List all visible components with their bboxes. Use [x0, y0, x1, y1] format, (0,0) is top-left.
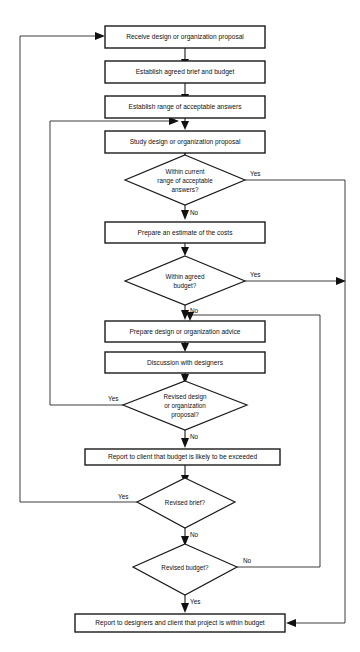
node-within-range-decision[interactable]: Within current range of acceptable answe…	[125, 155, 245, 205]
node-revised-design-line1: Revised design	[163, 393, 207, 401]
node-revised-brief-decision[interactable]: Revised brief?	[137, 478, 235, 528]
edge-label-revised-brief-no: No	[190, 531, 199, 538]
node-within-range-line3: answers?	[172, 186, 199, 193]
node-within-range-line2: range of acceptable	[157, 177, 213, 185]
node-study-proposal-label: Study design or organization proposal	[130, 138, 241, 146]
node-establish-brief[interactable]: Establish agreed brief and budget	[105, 61, 265, 83]
node-prepare-estimate[interactable]: Prepare an estimate of the costs	[105, 222, 265, 243]
edge-label-revised-budget-yes: Yes	[190, 598, 200, 605]
node-revised-brief-line1: Revised brief?	[165, 499, 206, 506]
arrow-revisedbudget-yes	[181, 603, 189, 613]
node-report-within-budget-label: Report to designers and client that proj…	[95, 619, 265, 627]
arrow-withinbudget-yes-join	[336, 277, 346, 285]
arrow-outer-right-to-report	[286, 619, 296, 627]
node-revised-budget-decision[interactable]: Revised budget?	[133, 544, 237, 595]
edge-label-within-budget-yes: Yes	[250, 271, 260, 278]
edge-label-within-range-no: No	[190, 209, 199, 216]
arrow-range-to-study	[181, 121, 189, 130]
node-establish-range[interactable]: Establish range of acceptable answers	[105, 96, 265, 118]
node-revised-design-decision[interactable]: Revised design or organization proposal?	[123, 381, 247, 430]
arrow-reviseddesign-no	[181, 438, 189, 448]
edge-label-revised-design-no: No	[190, 433, 199, 440]
node-revised-budget-line1: Revised budget?	[161, 564, 209, 572]
node-within-budget-diamond	[125, 256, 245, 305]
node-establish-brief-label: Establish agreed brief and budget	[136, 68, 235, 76]
edge-label-revised-design-yes: Yes	[108, 395, 118, 402]
node-prepare-advice[interactable]: Prepare design or organization advice	[105, 321, 265, 342]
arrow-withinrange-no	[181, 210, 189, 220]
arrow-advice-to-discussion	[181, 343, 189, 352]
edge-label-within-budget-no: No	[190, 307, 199, 314]
node-discussion[interactable]: Discussion with designers	[105, 352, 265, 373]
arrow-estimate-to-withinbudget	[181, 247, 189, 256]
node-within-budget-line2: budget?	[174, 282, 197, 290]
node-report-within-budget[interactable]: Report to designers and client that proj…	[75, 614, 285, 632]
node-prepare-advice-label: Prepare design or organization advice	[129, 328, 240, 336]
node-within-budget-line1: Within agreed	[166, 273, 205, 281]
edge-withinrange-yes-loop	[245, 180, 345, 623]
node-report-exceeded-label: Report to client that budget is likely t…	[108, 453, 258, 461]
node-study-proposal[interactable]: Study design or organization proposal	[105, 131, 265, 153]
node-revised-design-line3: proposal?	[171, 411, 199, 419]
flowchart-canvas: Receive design or organization proposal …	[0, 0, 360, 652]
node-report-exceeded[interactable]: Report to client that budget is likely t…	[85, 449, 280, 465]
node-within-budget-decision[interactable]: Within agreed budget?	[125, 256, 245, 305]
arrow-loop-to-receive	[95, 32, 105, 40]
node-receive-proposal[interactable]: Receive design or organization proposal	[105, 26, 265, 48]
edge-label-within-range-yes: Yes	[250, 170, 260, 177]
flowchart-svg: Receive design or organization proposal …	[0, 0, 360, 652]
node-discussion-label: Discussion with designers	[147, 359, 224, 367]
node-receive-proposal-label: Receive design or organization proposal	[126, 33, 244, 41]
node-revised-design-line2: or organization	[164, 402, 206, 410]
edge-label-revised-budget-no: No	[243, 557, 252, 564]
node-prepare-estimate-label: Prepare an estimate of the costs	[138, 229, 234, 237]
node-within-range-line1: Within current	[166, 168, 205, 175]
node-establish-range-label: Establish range of acceptable answers	[129, 103, 243, 111]
edge-label-revised-brief-yes: Yes	[118, 493, 128, 500]
